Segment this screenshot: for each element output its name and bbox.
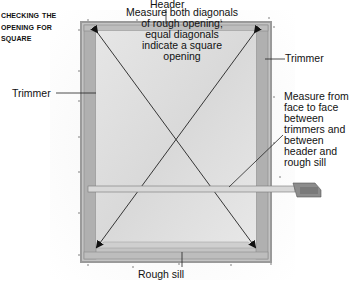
title-line-3: Square (1, 32, 56, 44)
trimmer-right-label: Trimmer (285, 53, 324, 64)
right-trimmer (256, 25, 268, 259)
face-to-face-note: Measure from face to face between trimme… (284, 91, 349, 168)
diagonals-note-line: opening (117, 51, 247, 62)
rough-sill-label: Rough sill (138, 269, 184, 280)
rough-sill-beam (84, 252, 268, 259)
sill-bevel (96, 242, 256, 248)
trimmer-left-label: Trimmer (12, 88, 51, 99)
face-to-face-note-line: rough sill (284, 157, 349, 168)
diagram-title: Checking the Opening for Square (1, 9, 56, 44)
title-line-2: Opening for (1, 21, 56, 33)
title-line-1: Checking the (1, 9, 56, 21)
left-trimmer (84, 25, 96, 259)
diagonals-note: Measure both diagonals of rough opening;… (117, 7, 247, 62)
